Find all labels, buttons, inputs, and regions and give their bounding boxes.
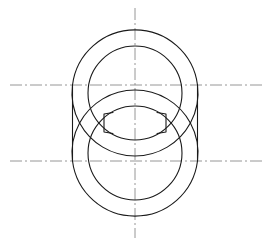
left-notch bbox=[104, 113, 113, 134]
right-notch bbox=[157, 113, 166, 134]
centerline-group bbox=[10, 8, 265, 238]
lower-ring-outer-upper-right-arc bbox=[190, 123, 198, 161]
technical-drawing-canvas bbox=[0, 0, 275, 246]
lower-ring-outer-upper-left-arc bbox=[72, 123, 80, 161]
drawing-svg bbox=[0, 0, 275, 246]
upper-ring-outer-lower-left-arc bbox=[72, 85, 80, 123]
upper-ring-outer-lower-right-arc bbox=[190, 85, 198, 123]
